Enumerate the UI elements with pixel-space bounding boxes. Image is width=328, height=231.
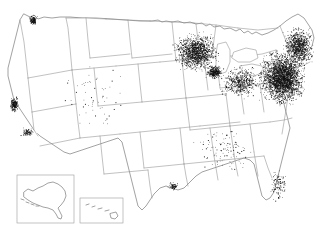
hawaii-inset-group xyxy=(80,198,123,223)
contiguous-outline xyxy=(8,14,314,210)
alaska-inset-group xyxy=(17,175,74,223)
hawaii-inset-frame xyxy=(80,198,123,223)
hawaii-islands xyxy=(86,204,118,219)
dot-density-map xyxy=(0,0,328,231)
contiguous-states-layer xyxy=(8,14,314,210)
map-canvas xyxy=(0,0,328,231)
cluster-los-angeles-basin xyxy=(21,128,34,136)
alaska-outline xyxy=(24,182,66,219)
